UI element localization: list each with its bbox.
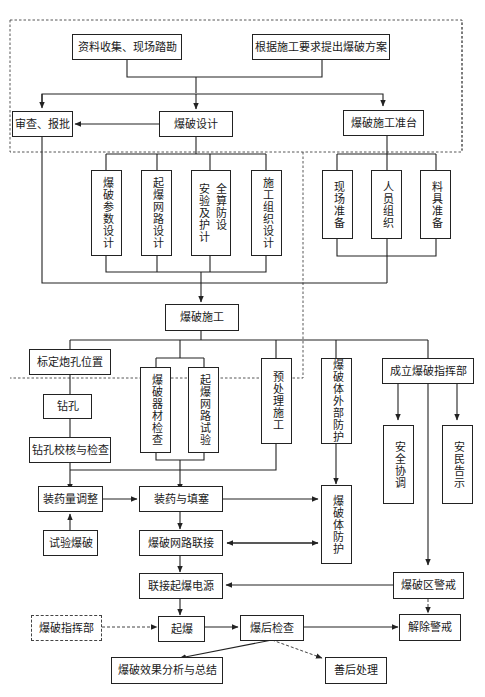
node-label: 施工组织设计	[260, 177, 273, 249]
node-label: 爆破施工	[180, 312, 224, 323]
node-network-test: 起爆网路试验	[188, 367, 219, 453]
node-label: 爆破区警戒	[401, 580, 456, 591]
node-site: 现场准备	[322, 170, 353, 239]
node-label: 爆破指挥部	[39, 623, 94, 634]
node-command: 爆破指挥部	[31, 615, 102, 641]
node-label: 起爆	[171, 624, 193, 635]
node-label: 钻孔	[57, 401, 79, 412]
node-notice: 安民告示	[442, 425, 473, 504]
node-label: 起爆网路设计	[150, 177, 163, 249]
node-label: 标定炮孔位置	[37, 357, 103, 368]
node-check-hole: 钻孔校核与检查	[29, 437, 111, 463]
blasting-flowchart: 资料收集、现场踏勘 根据施工要求提出爆破方案 审查、报批 爆破设计 爆破施工准台…	[0, 0, 485, 697]
node-label: 预处理施工	[270, 371, 283, 431]
node-lift-alert: 解除警戒	[399, 614, 461, 641]
node-analysis: 爆破效果分析与总结	[111, 657, 223, 684]
node-alert: 爆破区警戒	[393, 572, 464, 599]
node-safety: 全算防设 安验及护计	[191, 170, 231, 256]
node-label: 资料收集、现场踏勘	[78, 42, 177, 53]
node-material: 料具准备	[420, 170, 451, 239]
node-plan: 根据施工要求提出爆破方案	[252, 34, 390, 60]
node-label: 料具准备	[429, 181, 442, 229]
node-label: 爆破体外部防护	[330, 359, 343, 443]
node-label: 装药与填塞	[154, 494, 209, 505]
node-label: 安民告示	[451, 441, 464, 489]
node-label: 爆破体防护	[330, 495, 343, 555]
node-post-check: 爆后检查	[240, 615, 304, 641]
node-label: 试验爆破	[49, 538, 93, 549]
node-design: 爆破设计	[159, 111, 233, 137]
node-label: 解除警戒	[408, 622, 452, 633]
node-label: 善后处理	[334, 665, 378, 676]
node-review: 审查、报批	[12, 111, 73, 137]
node-label: 成立爆破指挥部	[390, 366, 467, 377]
node-pretreat: 预处理施工	[261, 358, 292, 444]
node-detonate: 起爆	[158, 616, 205, 642]
node-org: 施工组织设计	[251, 170, 282, 256]
node-label: 安全协调	[392, 441, 405, 489]
node-construct: 爆破施工	[165, 304, 239, 331]
node-command-setup: 成立爆破指挥部	[382, 358, 474, 384]
node-charge-fill: 装药与填塞	[139, 486, 223, 512]
node-label: 爆后检查	[250, 623, 294, 634]
node-label: 爆破网路联接	[148, 538, 214, 549]
node-label: 根据施工要求提出爆破方案	[255, 42, 387, 53]
node-body-protect: 爆破体防护	[321, 485, 352, 564]
node-aftermath: 善后处理	[325, 657, 387, 684]
node-label: 爆破效果分析与总结	[118, 665, 217, 676]
node-label: 钻孔校核与检查	[32, 445, 109, 456]
node-label: 联接起爆电源	[148, 581, 214, 592]
node-label: 起爆网路试验	[197, 374, 210, 446]
node-label: 人员组织	[380, 181, 393, 229]
node-label: 爆破施工准台	[351, 118, 417, 129]
node-prep: 爆破施工准台	[343, 110, 424, 136]
node-equip-check: 爆破器材检查	[140, 367, 171, 453]
node-trial: 试验爆破	[43, 530, 98, 556]
node-drill: 钻孔	[43, 394, 92, 419]
node-charge-adjust: 装药量调整	[38, 486, 103, 512]
node-label: 装药量调整	[43, 494, 98, 505]
node-network-connect: 爆破网路联接	[139, 530, 223, 556]
node-network: 起爆网路设计	[141, 170, 172, 256]
node-staff: 人员组织	[371, 170, 402, 239]
node-outer-protect: 爆破体外部防护	[321, 358, 352, 444]
node-label: 全算防设 安验及护计	[195, 183, 228, 243]
node-safety-coord: 安全协调	[383, 425, 414, 504]
node-label: 爆破参数设计	[100, 177, 113, 249]
node-label: 爆破设计	[174, 119, 218, 130]
node-mark: 标定炮孔位置	[29, 349, 111, 375]
node-label: 现场准备	[331, 181, 344, 229]
node-label: 审查、报批	[15, 119, 70, 130]
node-collect: 资料收集、现场踏勘	[72, 34, 182, 60]
node-label: 爆破器材检查	[149, 374, 162, 446]
node-param: 爆破参数设计	[91, 170, 122, 256]
node-power-connect: 联接起爆电源	[139, 573, 223, 599]
